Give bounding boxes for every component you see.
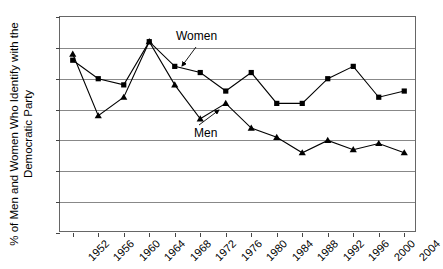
annotation-label-women: Women — [176, 30, 217, 42]
x-tick-label: 2000 — [392, 238, 417, 263]
data-point-marker — [120, 94, 127, 100]
x-tick-mark — [404, 233, 405, 237]
plot-area — [59, 16, 416, 232]
x-tick-label: 1956 — [111, 238, 136, 263]
x-tick-label: 1960 — [137, 238, 162, 263]
y-axis-title: % of Men and Women Who Identify with the… — [3, 22, 39, 246]
data-point-marker — [223, 88, 228, 93]
x-tick-label: 1952 — [86, 238, 111, 263]
x-tick-mark — [277, 233, 278, 237]
x-tick-mark — [149, 233, 150, 237]
data-point-marker — [171, 81, 178, 87]
data-point-marker — [375, 140, 382, 146]
x-tick-label: 1984 — [290, 238, 315, 263]
x-tick-mark — [226, 233, 227, 237]
data-point-marker — [96, 76, 101, 81]
data-point-marker — [402, 88, 407, 93]
data-point-marker — [222, 100, 229, 106]
series-line — [73, 42, 405, 104]
x-tick-label: 2004 — [417, 238, 442, 263]
data-point-marker — [325, 76, 330, 81]
data-point-marker — [324, 137, 331, 143]
data-series-layer — [60, 17, 417, 233]
x-tick-mark — [251, 233, 252, 237]
x-tick-mark — [353, 233, 354, 237]
annotation-label-men: Men — [194, 127, 217, 139]
data-point-marker — [274, 101, 279, 106]
y-axis-title-line-2: Democratic Party — [21, 90, 35, 178]
data-point-marker — [376, 95, 381, 100]
x-tick-mark — [175, 233, 176, 237]
x-tick-mark — [379, 233, 380, 237]
x-tick-label: 1992 — [341, 238, 366, 263]
y-tick-mark — [56, 233, 60, 234]
x-tick-label: 1976 — [239, 238, 264, 263]
data-point-marker — [351, 64, 356, 69]
data-point-marker — [95, 112, 102, 118]
x-tick-mark — [98, 233, 99, 237]
x-tick-mark — [73, 233, 74, 237]
x-tick-label: 1980 — [264, 238, 289, 263]
x-tick-label: 1964 — [162, 238, 187, 263]
x-tick-mark — [200, 233, 201, 237]
y-axis-title-line-1: % of Men and Women Who Identify with the — [7, 22, 21, 246]
data-point-marker — [121, 82, 126, 87]
data-point-marker — [299, 149, 306, 155]
x-tick-mark — [328, 233, 329, 237]
x-tick-mark — [302, 233, 303, 237]
x-tick-label: 1988 — [315, 238, 340, 263]
series-men — [69, 38, 408, 155]
x-tick-label: 1996 — [366, 238, 391, 263]
x-tick-mark — [124, 233, 125, 237]
x-tick-label: 1972 — [213, 238, 238, 263]
series-women — [70, 39, 407, 106]
data-point-marker — [198, 70, 203, 75]
x-tick-label: 1968 — [188, 238, 213, 263]
data-point-marker — [172, 64, 177, 69]
data-point-marker — [249, 70, 254, 75]
data-point-marker — [69, 50, 76, 56]
data-point-marker — [300, 101, 305, 106]
